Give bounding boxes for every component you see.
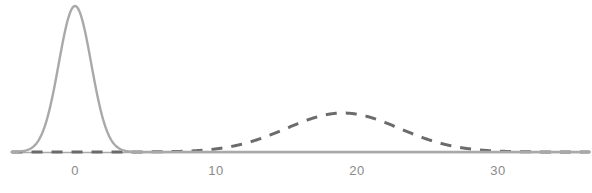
series-narrow-peak-solid: [12, 6, 590, 152]
x-tick-label-10: 10: [208, 164, 223, 177]
series-broad-peak-dashed: [12, 113, 590, 152]
chart-figure: 0 10 20 30: [0, 0, 592, 193]
x-tick-label-30: 30: [490, 164, 505, 177]
x-tick-label-20: 20: [349, 164, 364, 177]
x-tick-label-0: 0: [71, 164, 79, 177]
